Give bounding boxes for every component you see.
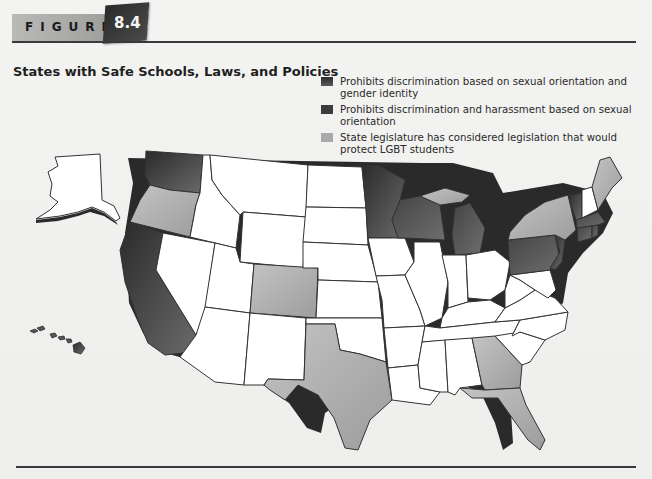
us-map: [0, 0, 652, 479]
state-alaska: [36, 154, 120, 221]
state-wyoming: [240, 212, 306, 268]
state-mississippi: [418, 340, 448, 392]
state-south-dakota: [303, 207, 368, 245]
state-iowa: [368, 238, 414, 276]
state-kansas: [316, 280, 382, 318]
state-new-mexico: [244, 313, 306, 385]
state-colorado: [250, 264, 318, 318]
state-hawaii: [30, 326, 85, 354]
state-north-dakota: [306, 165, 366, 208]
footer-rule: [16, 466, 636, 468]
